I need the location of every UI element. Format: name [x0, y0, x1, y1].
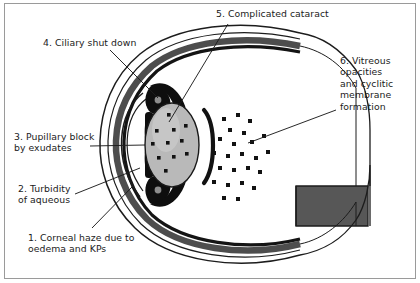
- label-ciliary-shut-down: 4. Ciliary shut down: [43, 37, 136, 48]
- globe-wall: [100, 25, 300, 263]
- lens: [145, 103, 199, 187]
- label-corneal-haze: 1. Corneal haze due to oedema and KPs: [28, 232, 135, 255]
- label-pupillary-block: 3. Pupillary block by exudates: [14, 131, 94, 154]
- vitreous-opacity-dots: [212, 113, 270, 201]
- eye-complications-figure: 1. Corneal haze due to oedema and KPs 2.…: [0, 0, 420, 283]
- cyclitic-membrane-arc: [204, 110, 213, 183]
- label-complicated-cataract: 5. Complicated cataract: [216, 8, 329, 19]
- label-turbidity-of-aqueous: 2. Turbidity of aqueous: [18, 183, 71, 206]
- label-vitreous-opacities: 6. Vitreous opacities and cyclitic membr…: [340, 55, 416, 112]
